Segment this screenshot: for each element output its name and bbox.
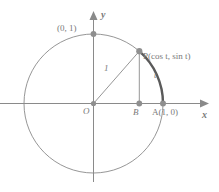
point-marker-top bbox=[91, 31, 97, 37]
point-marker-B bbox=[136, 101, 142, 107]
arc-angle-label: t bbox=[154, 71, 157, 80]
top-point-label: (0, 1) bbox=[57, 24, 77, 33]
radius-segment-OP bbox=[94, 51, 140, 103]
point-p-label: P(cos t, sin t) bbox=[143, 52, 191, 61]
x-axis-arrowhead bbox=[200, 100, 209, 108]
origin-label: O bbox=[83, 107, 90, 116]
unit-circle-diagram bbox=[0, 0, 219, 192]
point-b-label: B bbox=[133, 108, 139, 117]
point-marker-A bbox=[160, 101, 166, 107]
point-marker-P bbox=[136, 48, 142, 54]
unit-circle-figure: y x O (0, 1) P(cos t, sin t) A(1, 0) B 1… bbox=[0, 0, 219, 192]
y-axis-label: y bbox=[101, 10, 105, 20]
point-marker-O bbox=[91, 101, 96, 106]
radius-length-label: 1 bbox=[104, 64, 109, 73]
y-axis-arrowhead bbox=[90, 11, 98, 20]
x-axis-label: x bbox=[202, 110, 207, 120]
point-a-label: A(1, 0) bbox=[152, 108, 178, 117]
